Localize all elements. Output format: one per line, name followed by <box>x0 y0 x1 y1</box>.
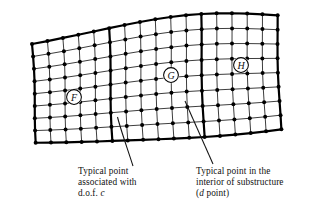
mesh-node <box>78 60 82 64</box>
mesh-node <box>124 81 128 85</box>
mesh-node <box>92 29 96 33</box>
mesh-node <box>139 49 143 53</box>
mesh-node <box>93 85 97 89</box>
label-text: F <box>70 92 78 103</box>
mesh-node <box>233 133 237 137</box>
caption-right-line2: interior of substructure <box>196 177 284 188</box>
mesh-node <box>185 90 189 94</box>
label-text: G <box>167 70 174 81</box>
mesh-node <box>31 54 35 58</box>
mesh-node <box>32 67 36 71</box>
mesh-node <box>230 57 234 61</box>
mesh-nodes <box>30 11 283 145</box>
mesh-node <box>203 135 207 139</box>
mesh-node <box>155 122 159 126</box>
mesh-node <box>63 75 67 79</box>
mesh-node <box>64 127 68 131</box>
mesh-node <box>109 97 113 101</box>
mesh-node <box>200 58 204 62</box>
mesh-node <box>200 89 204 93</box>
mesh-node <box>276 13 280 17</box>
mesh-node <box>215 73 219 77</box>
caption-right-suffix: point) <box>204 188 229 198</box>
mesh-node <box>95 139 99 143</box>
mesh-node <box>48 115 52 119</box>
mesh-node <box>63 102 67 106</box>
mesh-node <box>260 56 264 60</box>
mesh-node <box>262 100 266 104</box>
mesh-node <box>170 106 174 110</box>
mesh-node <box>276 56 280 60</box>
mesh-node <box>108 40 112 44</box>
mesh-node <box>245 72 249 76</box>
mesh-node <box>64 140 68 144</box>
mesh-node <box>109 125 113 129</box>
mesh-node <box>184 28 188 32</box>
mesh-node <box>157 137 161 141</box>
mesh-node <box>34 141 38 145</box>
mesh-node <box>277 85 281 89</box>
mesh-node <box>245 27 249 31</box>
mesh-node <box>47 65 51 69</box>
caption-left-dof-prefix: d.o.f. <box>78 188 100 198</box>
mesh-node <box>276 42 280 46</box>
mesh-node <box>141 138 145 142</box>
mesh-node <box>124 109 128 113</box>
mesh-node <box>109 83 113 87</box>
mesh-node <box>279 127 283 131</box>
mesh-node <box>139 108 143 112</box>
mesh-node <box>215 42 219 46</box>
substructure-label-g: G <box>163 67 180 84</box>
mesh-node <box>218 134 222 138</box>
mesh-node <box>200 73 204 77</box>
mesh-node <box>230 26 234 30</box>
mesh-node <box>248 116 252 120</box>
figure-page: FGH Typical point associated with d.o.f.… <box>0 0 318 214</box>
mesh-node <box>263 115 267 119</box>
mesh-node <box>231 87 235 91</box>
substructure-label-h: H <box>233 57 250 74</box>
mesh-node <box>154 92 158 96</box>
mesh-node <box>62 49 66 53</box>
mesh-node <box>217 119 221 123</box>
mesh-node <box>276 71 280 75</box>
mesh-node <box>260 27 264 31</box>
mesh-node <box>63 114 67 118</box>
mesh-node <box>48 103 52 107</box>
mesh-node <box>154 62 158 66</box>
mesh-node <box>249 131 253 135</box>
caption-typical-point-interior: Typical point in the interior of substru… <box>196 166 284 200</box>
mesh-node <box>109 111 113 115</box>
mesh-node <box>260 42 264 46</box>
mesh-node <box>169 15 173 19</box>
mesh-node <box>33 104 37 108</box>
mesh-node <box>245 12 249 16</box>
mesh-node <box>93 98 97 102</box>
mesh-node <box>47 52 51 56</box>
mesh-node <box>33 92 37 96</box>
caption-typical-point-dof: Typical point associated with d.o.f. c <box>78 166 137 200</box>
mesh-node <box>276 28 280 32</box>
mesh-node <box>107 26 111 30</box>
mesh-node <box>124 66 128 70</box>
mesh-node <box>169 60 173 64</box>
mesh-node <box>123 23 127 27</box>
mesh-node <box>154 47 158 51</box>
mesh-node <box>230 11 234 15</box>
mesh-node <box>124 52 128 56</box>
mesh-node <box>200 27 204 31</box>
caption-left-line3: d.o.f. c <box>78 188 137 199</box>
substructure-label-f: F <box>66 89 83 106</box>
mesh-node <box>78 113 82 117</box>
mesh-node <box>169 30 173 34</box>
mesh-node <box>245 42 249 46</box>
mesh-node <box>184 44 188 48</box>
mesh-node <box>186 120 190 124</box>
mesh-node <box>230 72 234 76</box>
mesh-node <box>77 46 81 50</box>
mesh-node <box>93 43 97 47</box>
caption-left-dof-symbol: c <box>100 188 104 198</box>
mesh-node <box>246 86 250 90</box>
mesh-node <box>215 57 219 61</box>
mesh-node <box>199 12 203 16</box>
